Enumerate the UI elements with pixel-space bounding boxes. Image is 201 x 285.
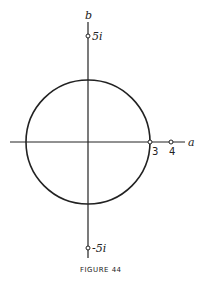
label-5i: 5i xyxy=(92,30,103,43)
point-3 xyxy=(148,140,152,144)
label-3: 3 xyxy=(152,146,158,157)
label-neg-5i: -5i xyxy=(92,242,106,255)
complex-plane-diagram: b a 5i -5i 3 4 FIGURE 44 xyxy=(0,0,201,285)
axis-label-a: a xyxy=(188,136,195,149)
figure-caption: FIGURE 44 xyxy=(80,266,122,274)
point-neg-5i xyxy=(86,246,90,250)
point-5i xyxy=(86,34,90,38)
label-4: 4 xyxy=(169,146,175,157)
axis-label-b: b xyxy=(85,9,92,22)
point-4 xyxy=(169,140,173,144)
